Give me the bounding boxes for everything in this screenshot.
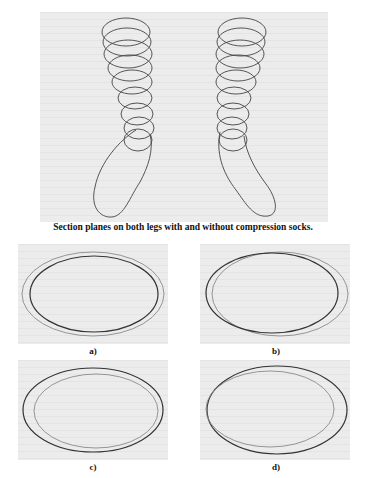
cross-section-panel-b bbox=[200, 244, 350, 344]
panel-label-c: c) bbox=[78, 462, 108, 472]
cross-section-panel-d bbox=[200, 360, 350, 460]
legs-section-planes-drawing bbox=[40, 12, 328, 222]
panel-label-a: a) bbox=[78, 346, 108, 356]
cross-section-ellipses-d bbox=[200, 360, 350, 460]
panel-label-b: b) bbox=[261, 346, 291, 356]
figure-caption: Section planes on both legs with and wit… bbox=[0, 222, 366, 232]
legs-figure-panel bbox=[40, 12, 328, 222]
cross-section-ellipses-b bbox=[200, 244, 350, 344]
right-leg bbox=[216, 18, 275, 216]
left-leg bbox=[94, 18, 154, 217]
cross-section-panel-c bbox=[18, 360, 168, 460]
cross-section-ellipses-c bbox=[18, 360, 168, 460]
cross-section-panel-a bbox=[18, 244, 168, 344]
cross-section-ellipses-a bbox=[18, 244, 168, 344]
panel-label-d: d) bbox=[261, 462, 291, 472]
